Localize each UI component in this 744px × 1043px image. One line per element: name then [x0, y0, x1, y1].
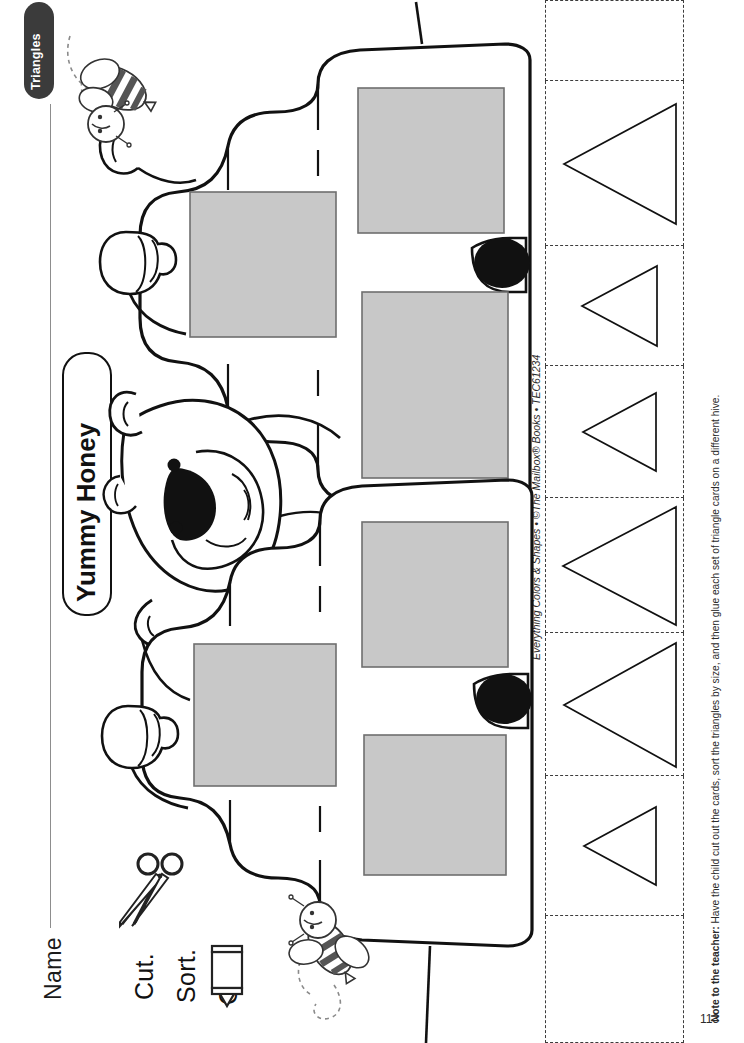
triangle-shape [546, 81, 685, 246]
copyright-line: Everything Colors & Shapes • ©The Mailbo… [530, 355, 542, 660]
triangle-card[interactable] [545, 498, 684, 633]
hive-top-square-lower [362, 292, 508, 478]
scissors-icon [120, 854, 182, 926]
bear-peeking-center [104, 392, 352, 645]
hive-top-entrance [472, 238, 530, 292]
beehive-top [140, 2, 530, 510]
instruction-cut: Cut. [130, 953, 159, 1000]
bear-eye-upper [168, 459, 181, 472]
triangle-card[interactable] [545, 633, 684, 776]
worksheet-page: Triangles Name Cut. Sort. Glue. Yummy Ho… [0, 0, 744, 1043]
cut-out-card-column [545, 0, 684, 1043]
teacher-note-body: Have the child cut out the cards, sort t… [710, 395, 721, 927]
bee-wing [329, 930, 375, 974]
teacher-note-prefix: Note to the teacher: [710, 926, 721, 1022]
name-label: Name [40, 937, 67, 1000]
triangle-shape [546, 776, 685, 916]
bear-peeking-top [100, 120, 196, 334]
hive-bottom-square-left [194, 644, 336, 786]
large-triangle [564, 104, 676, 224]
small-triangle [582, 266, 657, 346]
teacher-note: Note to the teacher: Have the child cut … [710, 395, 721, 1022]
hive-top-square-upper [358, 88, 504, 233]
hive-top-square-left [190, 192, 336, 337]
triangle-card[interactable] [545, 246, 684, 366]
topic-tab-label: Triangles [29, 33, 43, 90]
triangle-shape [546, 633, 685, 776]
hive-bottom-entrance [474, 674, 532, 728]
triangle-shape [546, 498, 685, 633]
triangle-card[interactable] [545, 776, 684, 916]
triangle-shape [546, 246, 685, 366]
bear-peeking-bottom [102, 640, 190, 808]
large-triangle [563, 507, 676, 625]
topic-tab-triangles: Triangles [24, 2, 54, 99]
small-triangle [584, 807, 656, 885]
name-writing-line[interactable] [50, 104, 51, 928]
triangle-card[interactable] [545, 366, 684, 498]
yummy-honey-label: Yummy Honey [71, 423, 102, 602]
large-triangle [564, 643, 676, 767]
page-number: 113 [700, 1012, 719, 1026]
hive-bottom-square-upper [362, 522, 508, 667]
triangle-card[interactable] [545, 81, 684, 246]
triangle-shape [546, 366, 685, 498]
hive-bottom-square-lower [364, 735, 506, 875]
bee-wing [76, 54, 124, 95]
instruction-glue: Glue. [214, 944, 243, 1005]
blank-card[interactable] [545, 0, 684, 81]
flying-bee-bottom [287, 895, 375, 1019]
blank-card[interactable] [545, 916, 684, 1043]
bee-wing [287, 937, 325, 967]
flying-bee-top [68, 36, 163, 147]
instruction-sort: Sort. [172, 949, 201, 1003]
bear-eye-lower [170, 522, 183, 535]
yummy-honey-sign: Yummy Honey [62, 352, 112, 616]
bee-wing [77, 84, 116, 116]
small-triangle [583, 393, 656, 471]
